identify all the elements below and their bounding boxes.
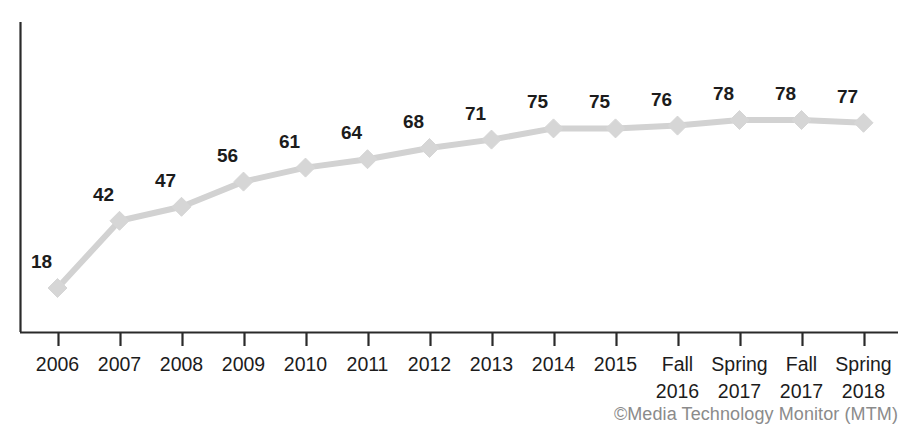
series-data-labels: 1842475661646871757576787877 [31,83,858,272]
x-tick-label: 2014 [532,353,576,375]
chart-container: 1842475661646871757576787877 20062007200… [0,0,904,441]
x-tick-label: 2010 [284,353,328,375]
data-point-label: 68 [403,111,424,132]
data-point-marker [296,158,315,177]
line-chart-plot: 1842475661646871757576787877 20062007200… [0,0,904,441]
x-tick-label: 2013 [470,353,513,375]
x-tick-label: 2009 [222,353,265,375]
data-point-marker [730,111,749,130]
data-point-marker [668,116,687,135]
data-point-label: 76 [651,89,672,110]
x-tick-label: Spring [711,353,767,375]
data-point-label: 47 [155,170,176,191]
series-markers-smartphone-use [48,111,873,298]
data-point-label: 56 [217,145,238,166]
data-point-marker [544,119,563,138]
axes [20,22,898,346]
x-tick-label: Fall [786,353,817,375]
data-point-label: 78 [775,83,796,104]
data-point-label: 75 [589,91,611,112]
x-tick-label: 2012 [408,353,451,375]
data-point-marker [792,111,811,130]
x-tick-label: 2006 [36,353,79,375]
data-point-marker [482,130,501,149]
x-tick-label-secondline: 2018 [842,380,885,402]
x-tick-label: 2008 [160,353,203,375]
data-point-marker [358,150,377,169]
x-tick-label-secondline: 2017 [780,380,823,402]
data-point-label: 78 [713,83,734,104]
x-tick-label-secondline: 2016 [656,380,699,402]
data-point-label: 77 [837,86,858,107]
x-axis-ticks [59,333,865,346]
data-point-marker [854,113,873,132]
data-point-label: 61 [279,131,301,152]
x-axis-tick-labels: 2006200720082009201020112012201320142015… [36,353,892,402]
x-tick-label: 2011 [347,353,389,375]
data-point-marker [234,172,253,191]
data-point-marker [606,119,625,138]
data-point-label: 75 [527,91,549,112]
data-point-label: 64 [341,122,363,143]
data-point-marker [420,139,439,158]
x-tick-label: 2007 [98,353,141,375]
data-point-label: 18 [31,251,52,272]
data-point-label: 71 [465,103,487,124]
data-point-label: 42 [93,184,114,205]
data-point-marker [172,197,191,216]
copyright-credit: ©Media Technology Monitor (MTM) [614,404,898,425]
x-tick-label-secondline: 2017 [718,380,761,402]
x-tick-label: Fall [662,353,693,375]
x-tick-label: 2015 [594,353,638,375]
x-tick-label: Spring [835,353,891,375]
